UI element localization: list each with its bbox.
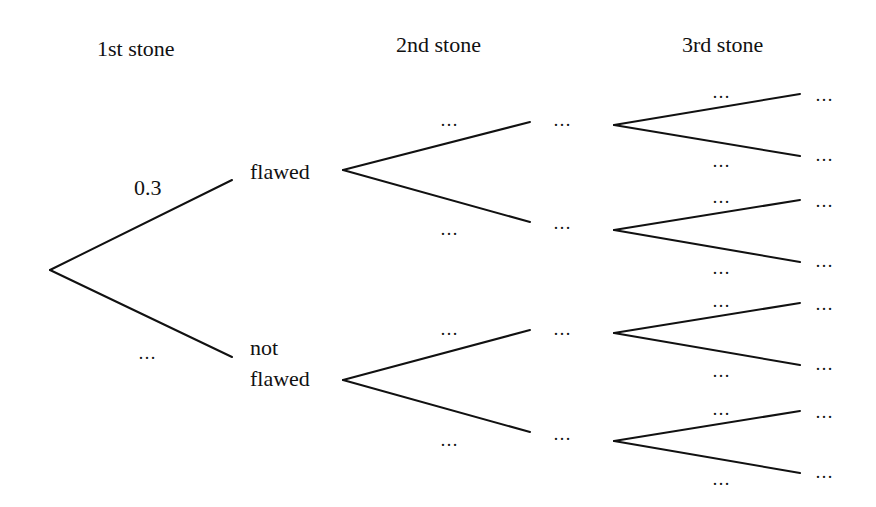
l3-outcome-5: … [815, 295, 834, 313]
prob-not-flawed: … [138, 344, 157, 362]
header-3rd-stone: 3rd stone [682, 33, 763, 57]
l3-prob-2: … [712, 152, 731, 170]
l2-prob-1: … [440, 111, 459, 129]
l3-prob-7: … [712, 400, 731, 418]
branch-notflawed-upper [343, 330, 530, 380]
l3-prob-1: … [712, 83, 731, 101]
l3-prob-8: … [712, 470, 731, 488]
outcome-flawed: flawed [250, 160, 310, 184]
l3-prob-4: … [712, 259, 731, 277]
l3-prob-5: … [712, 292, 731, 310]
l2-prob-2: … [440, 220, 459, 238]
l2-outcome-3: … [553, 320, 572, 338]
branch-notflawed-lower [343, 380, 530, 432]
l3-outcome-6: … [815, 355, 834, 373]
l2-outcome-4: … [553, 425, 572, 443]
outcome-not-flawed-line2: flawed [250, 367, 310, 391]
l2-prob-4: … [440, 431, 459, 449]
l3-outcome-2: … [815, 146, 834, 164]
header-2nd-stone: 2nd stone [396, 33, 481, 57]
l3-outcome-3: … [815, 192, 834, 210]
l3-outcome-4: … [815, 252, 834, 270]
prob-flawed: 0.3 [134, 176, 162, 200]
l3-outcome-7: … [815, 403, 834, 421]
l3-prob-6: … [712, 362, 731, 380]
l2-prob-3: … [440, 320, 459, 338]
l2-outcome-1: … [553, 111, 572, 129]
l3-prob-3: … [712, 188, 731, 206]
branch-flawed-upper [343, 122, 530, 170]
l2-outcome-2: … [553, 214, 572, 232]
tree-diagram-lines [0, 0, 876, 507]
branch-flawed-lower [343, 170, 530, 222]
outcome-not-flawed-line1: not [250, 336, 278, 360]
header-1st-stone: 1st stone [97, 37, 175, 61]
l3-outcome-1: … [815, 86, 834, 104]
l3-outcome-8: … [815, 463, 834, 481]
